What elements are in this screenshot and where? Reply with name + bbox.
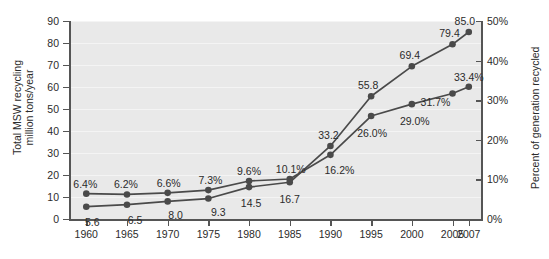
y-axis-left-tick xyxy=(63,131,70,132)
gridline xyxy=(70,21,481,22)
y-axis-left-tick xyxy=(63,43,70,44)
data-point-label: 55.8 xyxy=(344,80,392,91)
x-axis-tick-label: 1965 xyxy=(104,229,150,240)
y-axis-right-tick-label: 0% xyxy=(487,214,533,225)
data-point-label: 16.2% xyxy=(315,165,363,176)
y-axis-right-title: Percent of generation recycled xyxy=(530,38,542,198)
y-axis-left-title: Total MSW recyclingmillion tons/year xyxy=(12,53,35,163)
gridline xyxy=(70,175,481,176)
gridline xyxy=(70,43,481,44)
y-axis-right-tick xyxy=(476,140,483,141)
data-point-label: 26.0% xyxy=(348,128,396,139)
data-point-label: 16.7 xyxy=(266,194,314,205)
data-point-label: 29.0% xyxy=(391,116,439,127)
y-axis-left-tick xyxy=(63,87,70,88)
y-axis-left-tick xyxy=(63,65,70,66)
data-point-label: 85.0 xyxy=(441,16,489,27)
x-axis-tick xyxy=(330,220,331,226)
y-axis-right-tick-label: 50% xyxy=(487,16,533,27)
gridline xyxy=(70,87,481,88)
y-axis-left-tick-label: 10 xyxy=(19,192,59,203)
y-axis-right-line xyxy=(481,21,483,220)
data-point-label: 8.0 xyxy=(152,210,200,221)
y-axis-left-tick xyxy=(63,175,70,176)
y-axis-right-tick xyxy=(476,61,483,62)
x-axis-tick-label: 1975 xyxy=(185,229,231,240)
data-point-label: 33.2 xyxy=(304,130,352,141)
x-axis-tick-label: 1970 xyxy=(145,229,191,240)
y-axis-left-tick-label: 0 xyxy=(19,214,59,225)
data-point-label: 5.6 xyxy=(68,217,116,228)
y-axis-left-line xyxy=(69,21,71,220)
gridline xyxy=(70,131,481,132)
x-axis-tick-label: 2007 xyxy=(446,229,492,240)
x-axis-tick xyxy=(208,220,209,226)
x-axis-tick-label: 1990 xyxy=(307,229,353,240)
y-axis-left-tick-label: 80 xyxy=(19,38,59,49)
gridline xyxy=(70,109,481,110)
y-axis-right-tick xyxy=(476,179,483,180)
y-axis-right-tick xyxy=(476,219,483,220)
x-axis-tick xyxy=(469,220,470,226)
data-point-label: 31.7% xyxy=(412,97,460,108)
data-point-label: 7.3% xyxy=(186,175,234,186)
x-axis-tick-label: 2000 xyxy=(389,229,435,240)
y-axis-left-tick xyxy=(63,109,70,110)
x-axis-tick xyxy=(290,220,291,226)
gridline xyxy=(70,65,481,66)
gridline xyxy=(70,153,481,154)
x-axis-tick-label: 1995 xyxy=(348,229,394,240)
y-axis-left-tick-label: 20 xyxy=(19,170,59,181)
chart-figure: 0102030405060708090 0%10%20%30%40%50% 19… xyxy=(0,0,549,259)
data-point-label: 33.4% xyxy=(445,72,493,83)
data-point-label: 10.1% xyxy=(267,164,315,175)
y-axis-left-tick-label: 90 xyxy=(19,16,59,27)
y-axis-left-tick xyxy=(63,21,70,22)
x-axis-tick xyxy=(249,220,250,226)
data-point-label: 69.4 xyxy=(386,50,434,61)
y-axis-left-tick xyxy=(63,197,70,198)
y-axis-left-tick xyxy=(63,153,70,154)
x-axis-tick xyxy=(371,220,372,226)
x-axis-tick xyxy=(453,220,454,226)
x-axis-tick xyxy=(412,220,413,226)
y-axis-right-tick-label: 40% xyxy=(487,56,533,67)
x-axis-tick-label: 1960 xyxy=(63,229,109,240)
x-axis-tick-label: 1980 xyxy=(226,229,272,240)
y-axis-right-tick-label: 20% xyxy=(487,135,533,146)
x-axis-tick-label: 1985 xyxy=(267,229,313,240)
data-point-label: 79.4 xyxy=(426,28,474,39)
y-axis-right-tick-label: 10% xyxy=(487,174,533,185)
y-axis-right-tick xyxy=(476,100,483,101)
y-axis-right-tick-label: 30% xyxy=(487,95,533,106)
data-point-label: 6.2% xyxy=(102,179,150,190)
